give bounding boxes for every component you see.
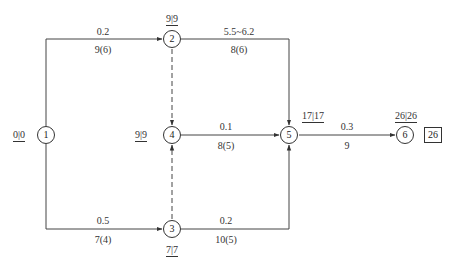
node-3-times: 7|7 bbox=[166, 245, 178, 255]
node-4: 4 bbox=[163, 126, 181, 144]
node-6-times-text: 26|26 bbox=[395, 110, 417, 123]
edge-3-5-top: 0.2 bbox=[220, 216, 233, 226]
node-5-times-text: 17|17 bbox=[302, 110, 324, 123]
node-1-times-text: 0|0 bbox=[13, 129, 25, 142]
node-1: 1 bbox=[37, 126, 55, 144]
node-1-times: 0|0 bbox=[13, 130, 25, 140]
node-5-times: 17|17 bbox=[302, 111, 324, 121]
edge-2-5-bottom: 8(6) bbox=[231, 45, 248, 55]
edge-4-5-top: 0.1 bbox=[220, 122, 233, 132]
edge-3-5-bottom: 10(5) bbox=[215, 235, 237, 245]
edge-1-2-bottom: 9(6) bbox=[95, 45, 112, 55]
node-3-times-text: 7|7 bbox=[166, 244, 178, 257]
node-2-times-text: 9|9 bbox=[166, 13, 178, 26]
edge-2-5-top: 5.5~6.2 bbox=[224, 27, 254, 37]
node-4-times: 9|9 bbox=[135, 130, 147, 140]
node-6: 6 bbox=[396, 126, 414, 144]
edge-1-2-top: 0.2 bbox=[97, 27, 110, 37]
node-2-times: 9|9 bbox=[166, 14, 178, 24]
node-6-times: 26|26 bbox=[395, 111, 417, 121]
node-3: 3 bbox=[163, 220, 181, 238]
edge-1-3-top: 0.5 bbox=[97, 216, 110, 226]
node-4-times-text: 9|9 bbox=[135, 129, 147, 142]
edge-4-5-bottom: 8(5) bbox=[218, 141, 235, 151]
edge-1-3-bottom: 7(4) bbox=[95, 235, 112, 245]
edge-5-6-bottom: 9 bbox=[345, 141, 350, 151]
network-diagram-lines bbox=[0, 0, 452, 272]
total-duration-box: 26 bbox=[424, 127, 442, 143]
edge-3-5 bbox=[181, 145, 289, 229]
node-2: 2 bbox=[163, 30, 181, 48]
node-5: 5 bbox=[280, 126, 298, 144]
edge-5-6-top: 0.3 bbox=[341, 122, 354, 132]
